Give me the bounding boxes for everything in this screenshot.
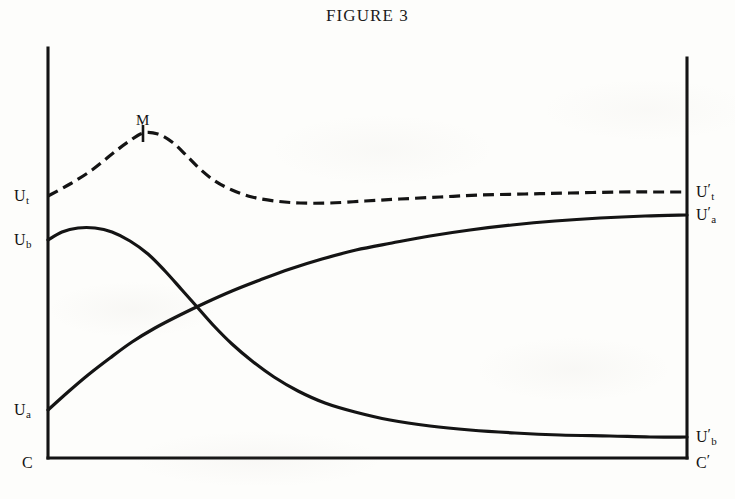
axis-label-ut: Ut (14, 188, 29, 204)
axis-label-c: C (22, 455, 33, 471)
axis-label-c-prime: C′ (696, 455, 710, 471)
curve-utility-a-rising (48, 215, 687, 410)
axis-label-ua: Ua (14, 402, 30, 418)
axis-label-ub-prime-base: U (696, 428, 708, 445)
axis-label-ut-prime-sub: t (711, 190, 714, 202)
axis-label-ut-base: U (14, 187, 26, 204)
curve-total-utility (48, 132, 687, 203)
axis-label-ua-prime-base: U (696, 206, 708, 223)
axis-label-ua-prime: U′a (696, 207, 716, 223)
axis-label-ua-prime-sub: a (711, 213, 716, 225)
axis-label-ub: Ub (14, 232, 31, 248)
peak-label-m: M (136, 113, 149, 128)
axis-label-ub-prime: U′b (696, 429, 716, 445)
axis-label-ua-sub: a (26, 408, 31, 420)
axis-label-ut-sub: t (26, 194, 29, 206)
curve-utility-b-declining (48, 228, 687, 438)
axis-label-ub-prime-sub: b (711, 435, 717, 447)
axis-label-ut-prime: U′t (696, 184, 714, 200)
axis-label-ua-base: U (14, 401, 26, 418)
axis-label-c-prime-mark: ′ (707, 452, 710, 468)
figure-caption: FIGURE 3 (0, 6, 735, 26)
figure-caption-label: FIGURE 3 (326, 6, 409, 25)
axis-label-ut-prime-base: U (696, 183, 708, 200)
axis-label-ub-sub: b (26, 238, 32, 250)
axis-label-ub-base: U (14, 231, 26, 248)
figure-plot (0, 0, 735, 499)
axis-label-c-prime-base: C (696, 454, 707, 471)
axis-label-c-base: C (22, 454, 33, 471)
figure-page: FIGURE 3 M Ut Ub Ua C U′t U′a U′b C′ (0, 0, 735, 499)
